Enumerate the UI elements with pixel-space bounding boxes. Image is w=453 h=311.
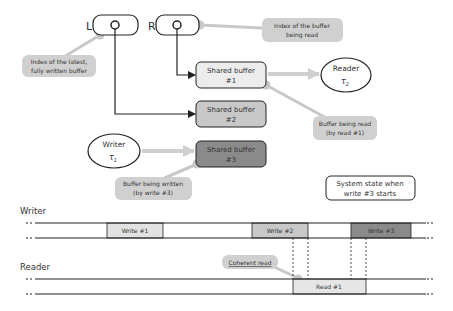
svg-text:#3: #3: [226, 156, 236, 164]
right-register-label: R: [148, 20, 156, 33]
callout-read-index: Index of the buffer being read: [262, 18, 343, 42]
svg-text:Write #2: Write #2: [267, 227, 294, 234]
svg-text:Shared buffer: Shared buffer: [207, 146, 255, 154]
svg-text:Buffer being read: Buffer being read: [319, 120, 372, 128]
left-register-pointer-icon: [111, 21, 119, 29]
writer-timeline-label: Writer: [20, 206, 46, 216]
diagram-canvas: L R Index of the latest, fully written b…: [0, 0, 453, 311]
svg-text:Shared buffer: Shared buffer: [207, 67, 255, 75]
svg-text:Buffer being written: Buffer being written: [123, 180, 183, 188]
writer-task: Writer τ1: [88, 134, 140, 168]
right-register: R: [148, 15, 199, 35]
left-pointer-arrow: [115, 29, 195, 114]
left-register-label: L: [86, 20, 93, 33]
svg-text:Coherent read: Coherent read: [229, 259, 272, 266]
svg-text:Reader: Reader: [333, 64, 360, 73]
right-register-pointer-icon: [173, 21, 181, 29]
callout-latest-index: Index of the latest, fully written buffe…: [22, 55, 96, 77]
timing-guides: [293, 238, 366, 279]
svg-text:Writer: Writer: [103, 140, 127, 149]
svg-text:System state when: System state when: [336, 180, 403, 188]
svg-text:Write #1: Write #1: [122, 227, 149, 234]
svg-text:fully written buffer: fully written buffer: [31, 67, 87, 75]
svg-text:being read: being read: [286, 31, 318, 39]
right-pointer-arrow: [177, 29, 195, 75]
svg-text:(by write #3): (by write #3): [133, 189, 173, 197]
svg-text:Write #3: Write #3: [368, 227, 395, 234]
shared-buffer-3: Shared buffer #3: [196, 141, 266, 167]
svg-text:Shared buffer: Shared buffer: [207, 106, 255, 114]
system-state-note: System state when write #3 starts: [326, 176, 415, 200]
svg-text:Index of the buffer: Index of the buffer: [274, 22, 330, 29]
reader-timeline-label: Reader: [20, 262, 51, 272]
shared-buffer-2: Shared buffer #2: [196, 101, 266, 127]
reader-task: Reader τ2: [321, 58, 371, 92]
svg-text:#2: #2: [226, 116, 236, 124]
svg-text:(by read #1): (by read #1): [326, 129, 364, 137]
callout-buffer-read: Buffer being read (by read #1): [313, 116, 377, 140]
callout-buffer-written: Buffer being written (by write #3): [115, 177, 192, 200]
svg-text:Index of the latest,: Index of the latest,: [31, 58, 88, 65]
svg-text:write #3 starts: write #3 starts: [344, 190, 397, 198]
left-register: L: [86, 15, 138, 35]
callout-coherent-read: Coherent read: [222, 255, 278, 269]
shared-buffer-1: Shared buffer #1: [196, 62, 266, 88]
writer-timeline: Writer Write #1 Write #2 Write #3: [20, 206, 435, 238]
svg-text:Read #1: Read #1: [316, 283, 342, 290]
svg-text:#1: #1: [226, 77, 236, 85]
